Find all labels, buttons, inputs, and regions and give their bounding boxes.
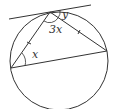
- angle-arc-top: [44, 18, 58, 23]
- label-y: y: [61, 8, 69, 21]
- label-x: x: [32, 48, 39, 61]
- geometry-diagram: y 3x x: [0, 0, 117, 109]
- angle-arc-tangent: [58, 10, 60, 18]
- triangle-side-left: [11, 12, 50, 68]
- label-3x: 3x: [49, 23, 63, 36]
- angle-arc-left: [22, 53, 26, 66]
